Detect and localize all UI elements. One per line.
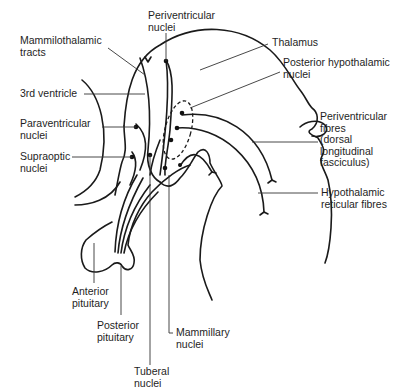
label-supraoptic-nuclei: Supraoptic nuclei [20,151,70,174]
label-posterior-hypothalamic-nuclei: Posterior hypothalamic nuclei [283,57,390,80]
pituitary-outline [81,165,190,272]
label-anterior-pituitary: Anterior pituitary [72,286,109,309]
label-thalamus: Thalamus [272,37,318,49]
label-tuberal-nuclei: Tuberal nuclei [134,366,169,389]
leader-thalamus [200,44,268,70]
label-paraventricular-nuclei: Paraventricular nuclei [20,118,91,141]
posterior-nucleus-dot-1 [180,111,185,116]
posterior-nucleus-dot-2 [175,126,180,131]
ventricle-wall [115,126,125,195]
label-periventricular-nuclei: Periventricular nuclei [148,10,215,33]
reticular-fibre-tract [177,128,264,212]
label-periventricular-fibres: Periventricular fibres (dorsal longitudi… [320,111,387,169]
posterior-nucleus-dot-3 [169,138,174,143]
leader-mammilothalamic [108,48,145,75]
posterior-fibre [180,155,212,172]
leader-posterior-hypothalamic [190,72,280,108]
label-3rd-ventricle: 3rd ventricle [20,88,77,100]
periventricular-fibre-tract [182,114,272,180]
label-mammilothalamic-tracts: Mammilothalamic tracts [20,35,102,58]
mammillary-nucleus-dot [163,166,168,171]
paraventricular-fibre [136,124,146,170]
label-hypothalamic-reticular-fibres: Hypothalamic reticular fibres [321,187,387,210]
label-posterior-pituitary: Posterior pituitary [97,320,139,343]
fibre-fork-top [145,57,151,62]
mammillary-nucleus-dot-2 [178,163,182,167]
label-mammillary-nuclei: Mammillary nuclei [176,327,230,350]
